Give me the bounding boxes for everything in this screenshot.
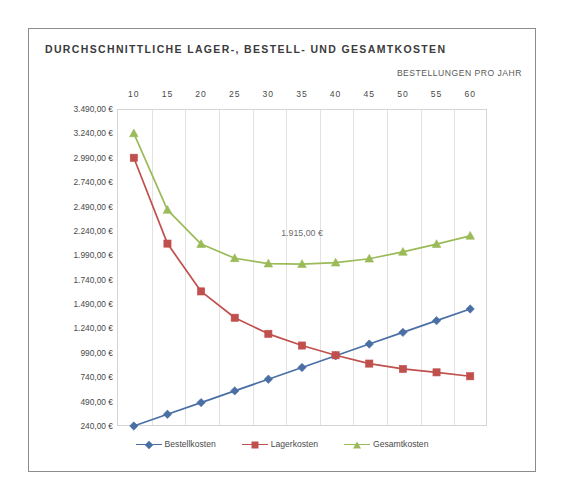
data-point-marker bbox=[298, 363, 306, 371]
data-point-marker bbox=[163, 410, 171, 418]
chart-legend: BestellkostenLagerkostenGesamtkosten bbox=[29, 439, 535, 449]
data-point-marker bbox=[433, 369, 440, 376]
plot-area-wrapper: 3.490,00 €3.240,00 €2.990,00 €2.740,00 €… bbox=[29, 29, 537, 473]
data-point-marker bbox=[298, 342, 305, 349]
data-point-marker bbox=[130, 154, 137, 161]
data-point-marker bbox=[264, 375, 272, 383]
legend-marker-icon bbox=[144, 440, 152, 448]
data-point-marker bbox=[366, 360, 373, 367]
chart-card: DURCHSCHNITTLICHE LAGER-, BESTELL- UND G… bbox=[28, 28, 536, 472]
data-point-marker bbox=[130, 129, 139, 137]
x-tick-label: 15 bbox=[162, 89, 174, 99]
legend-marker-icon bbox=[251, 441, 258, 448]
data-point-marker bbox=[332, 352, 339, 359]
legend-label: Gesamtkosten bbox=[373, 439, 428, 449]
y-axis-tick-labels: 3.490,00 €3.240,00 €2.990,00 €2.740,00 €… bbox=[29, 109, 113, 426]
x-tick-label: 45 bbox=[363, 89, 375, 99]
data-point-marker bbox=[466, 231, 475, 239]
x-tick-label: 60 bbox=[464, 89, 476, 99]
data-point-marker bbox=[467, 373, 474, 380]
legend-item[interactable]: Bestellkosten bbox=[136, 439, 216, 449]
legend-item[interactable]: Gesamtkosten bbox=[344, 439, 428, 449]
y-tick-label: 240,00 € bbox=[80, 421, 113, 431]
data-label-annotation: 1.915,00 € bbox=[281, 228, 323, 238]
x-tick-label: 30 bbox=[263, 89, 275, 99]
data-point-marker bbox=[197, 288, 204, 295]
data-point-marker bbox=[432, 316, 440, 324]
series-line bbox=[134, 133, 470, 264]
y-tick-label: 3.490,00 € bbox=[73, 104, 113, 114]
y-tick-label: 740,00 € bbox=[80, 372, 113, 382]
y-tick-label: 1.990,00 € bbox=[73, 250, 113, 260]
legend-line-swatch bbox=[242, 444, 268, 445]
y-tick-label: 1.740,00 € bbox=[73, 275, 113, 285]
x-tick-label: 25 bbox=[229, 89, 241, 99]
data-point-marker bbox=[399, 365, 406, 372]
data-point-marker bbox=[231, 314, 238, 321]
y-tick-label: 1.240,00 € bbox=[73, 323, 113, 333]
y-tick-label: 2.240,00 € bbox=[73, 226, 113, 236]
data-point-marker bbox=[231, 387, 239, 395]
data-point-marker bbox=[164, 240, 171, 247]
y-tick-label: 490,00 € bbox=[80, 397, 113, 407]
y-tick-label: 2.490,00 € bbox=[73, 202, 113, 212]
legend-item[interactable]: Lagerkosten bbox=[242, 439, 318, 449]
data-point-marker bbox=[197, 398, 205, 406]
legend-line-swatch bbox=[136, 444, 162, 445]
x-tick-label: 40 bbox=[330, 89, 342, 99]
data-point-marker bbox=[365, 340, 373, 348]
x-tick-label: 10 bbox=[128, 89, 140, 99]
y-tick-label: 2.990,00 € bbox=[73, 153, 113, 163]
legend-marker-icon bbox=[353, 441, 361, 448]
y-tick-label: 2.740,00 € bbox=[73, 177, 113, 187]
y-tick-label: 1.490,00 € bbox=[73, 299, 113, 309]
y-tick-label: 990,00 € bbox=[80, 348, 113, 358]
x-tick-label: 35 bbox=[296, 89, 308, 99]
data-point-marker bbox=[130, 422, 138, 430]
data-point-marker bbox=[163, 206, 172, 214]
legend-label: Lagerkosten bbox=[271, 439, 318, 449]
x-tick-label: 50 bbox=[397, 89, 409, 99]
series-layer bbox=[117, 109, 487, 426]
x-tick-label: 55 bbox=[431, 89, 443, 99]
data-point-marker bbox=[399, 328, 407, 336]
data-point-marker bbox=[265, 330, 272, 337]
data-point-marker bbox=[466, 305, 474, 313]
y-tick-label: 3.240,00 € bbox=[73, 128, 113, 138]
legend-line-swatch bbox=[344, 444, 370, 445]
x-tick-label: 20 bbox=[195, 89, 207, 99]
legend-label: Bestellkosten bbox=[165, 439, 216, 449]
